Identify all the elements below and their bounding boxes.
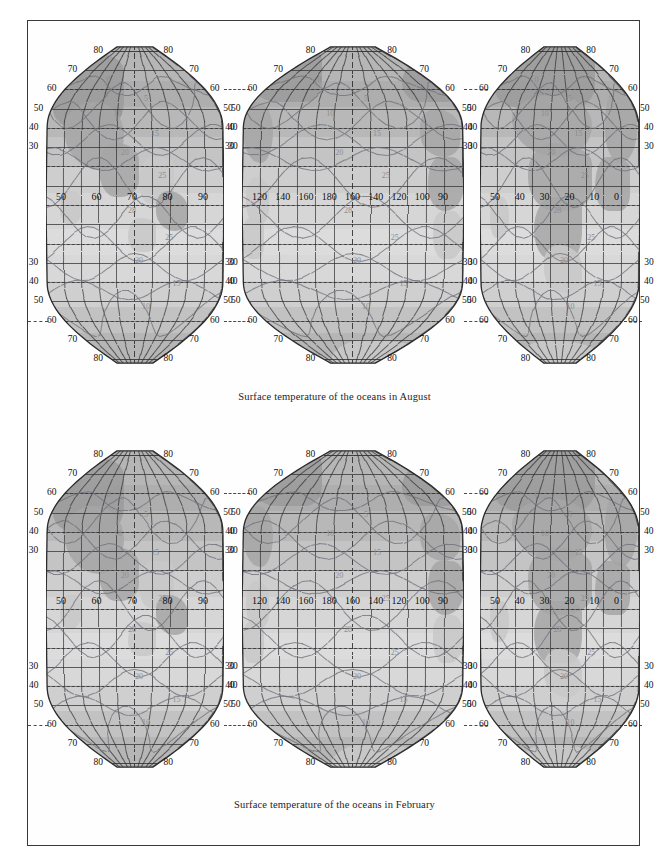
meridian xyxy=(187,251,188,260)
meridian xyxy=(81,186,82,195)
latitude-label-60: 60 xyxy=(479,719,489,729)
meridian xyxy=(279,683,280,692)
central-meridian xyxy=(352,628,353,637)
isotherm-label-10: 10 xyxy=(142,718,150,727)
meridian xyxy=(639,637,640,646)
meridian xyxy=(297,572,298,581)
meridian xyxy=(222,233,223,242)
meridian xyxy=(462,535,463,544)
isotherm-label-20: 20 xyxy=(121,148,129,157)
longitude-label-70: 70 xyxy=(127,595,137,606)
latitude-label-60: 60 xyxy=(479,487,489,497)
meridian xyxy=(550,516,551,525)
latitude-label-40: 40 xyxy=(29,526,39,536)
meridian xyxy=(260,177,261,186)
latitude-label-60: 60 xyxy=(445,719,455,729)
meridian xyxy=(389,251,390,260)
meridian xyxy=(389,224,390,233)
isotherm-label-25: 25 xyxy=(391,233,399,242)
meridian xyxy=(297,186,298,195)
longitude-label-10: 10 xyxy=(589,191,599,202)
central-meridian xyxy=(352,354,353,363)
longitude-label-10: 10 xyxy=(589,595,599,606)
meridian xyxy=(407,609,408,618)
meridian xyxy=(297,618,298,627)
meridian xyxy=(389,637,390,646)
meridian xyxy=(334,177,335,186)
meridian xyxy=(242,168,243,177)
graticule-extension--60 xyxy=(224,725,250,726)
meridian xyxy=(297,609,298,618)
meridian xyxy=(46,544,47,553)
meridian xyxy=(152,214,153,223)
longitude-label-120: 120 xyxy=(392,595,407,606)
latitude-label-70: 70 xyxy=(498,64,508,74)
longitude-label-90: 90 xyxy=(438,191,448,202)
isotherm-15 xyxy=(487,574,493,575)
graticule-extension-60 xyxy=(224,89,250,90)
parallel-minor xyxy=(485,705,635,706)
central-meridian xyxy=(352,335,353,344)
landmass xyxy=(433,211,464,259)
meridian xyxy=(463,224,464,233)
isotherm-15 xyxy=(251,574,259,575)
central-meridian xyxy=(134,93,135,102)
meridian xyxy=(222,535,223,544)
meridian xyxy=(205,581,206,590)
longitude-label-140: 140 xyxy=(275,191,290,202)
meridian xyxy=(334,261,335,270)
meridian xyxy=(242,535,243,544)
meridian xyxy=(152,158,153,167)
central-meridian xyxy=(352,730,353,739)
meridian xyxy=(152,637,153,646)
meridian xyxy=(426,609,427,618)
meridian xyxy=(515,252,516,261)
meridian xyxy=(99,665,100,674)
isotherm-label-20: 20 xyxy=(560,672,568,681)
meridian xyxy=(297,140,298,149)
central-meridian xyxy=(352,525,353,534)
central-meridian xyxy=(352,103,353,112)
latitude-label-60: 60 xyxy=(628,83,638,93)
longitude-label-100: 100 xyxy=(415,191,430,202)
isotherm-label-20: 20 xyxy=(335,571,343,580)
meridian xyxy=(480,270,481,279)
longitude-label-30: 30 xyxy=(540,595,550,606)
graticule-extension-60 xyxy=(464,493,488,494)
meridian xyxy=(462,233,463,242)
isotherm-label-28: 28 xyxy=(344,625,352,634)
meridian xyxy=(297,590,298,599)
meridian xyxy=(515,140,516,149)
isotherm-label-20: 20 xyxy=(335,148,343,157)
meridian xyxy=(81,177,82,186)
central-meridian xyxy=(352,158,353,167)
latitude-label-60: 60 xyxy=(628,719,638,729)
latitude-label-40: 40 xyxy=(463,276,473,286)
central-meridian xyxy=(134,451,135,460)
latitude-label-80: 80 xyxy=(93,45,103,55)
central-meridian xyxy=(134,158,135,167)
meridian xyxy=(568,581,569,590)
meridian xyxy=(480,665,481,674)
latitude-label-30: 30 xyxy=(463,257,473,267)
parallel-minor xyxy=(242,205,464,206)
latitude-label-30: 30 xyxy=(463,545,473,555)
latitude-label-50: 50 xyxy=(231,295,241,305)
latitude-label-40: 40 xyxy=(463,680,473,690)
meridian xyxy=(279,665,280,674)
meridian xyxy=(480,535,481,544)
isotherm-label-25: 25 xyxy=(391,648,399,657)
meridian xyxy=(621,158,622,167)
longitude-label-90: 90 xyxy=(438,595,448,606)
meridian xyxy=(297,665,298,674)
central-meridian xyxy=(352,168,353,177)
meridian xyxy=(407,544,408,553)
central-meridian xyxy=(352,469,353,478)
central-meridian xyxy=(134,562,135,571)
latitude-label-60: 60 xyxy=(445,315,455,325)
meridian xyxy=(389,665,390,674)
isotherm-label-0: 0 xyxy=(107,490,111,499)
meridian xyxy=(169,618,170,627)
latitude-label-30: 30 xyxy=(644,545,654,555)
meridian xyxy=(152,233,153,242)
